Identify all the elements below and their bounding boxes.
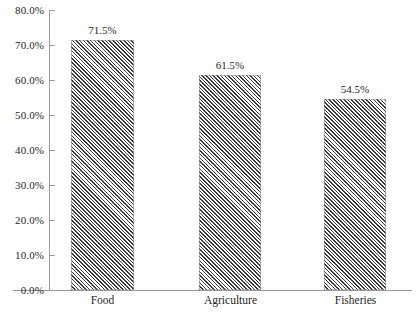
- y-axis-tick: [50, 80, 55, 81]
- bar-chart: 80.0% 70.0% 60.0% 50.0% 40.0% 30.0% 20.0…: [0, 0, 417, 316]
- y-axis-label-0: 0.0%: [21, 285, 44, 296]
- y-axis-tick: [50, 115, 55, 116]
- y-axis-tick: [50, 10, 55, 11]
- y-axis-label-20: 20.0%: [15, 215, 44, 226]
- x-axis-label-food: Food: [62, 294, 143, 307]
- y-axis-tick: [50, 185, 55, 186]
- y-axis-tick: [50, 45, 55, 46]
- y-axis-label-10: 10.0%: [15, 250, 44, 261]
- y-axis-tick: [50, 220, 55, 221]
- value-label-agriculture: 61.5%: [199, 60, 261, 71]
- y-axis-tick: [50, 150, 55, 151]
- y-axis-label-30: 30.0%: [15, 180, 44, 191]
- y-axis-tick: [50, 255, 55, 256]
- y-axis-label-60: 60.0%: [15, 75, 44, 86]
- bar-fisheries[interactable]: [324, 99, 386, 290]
- y-axis-label-50: 50.0%: [15, 110, 44, 121]
- y-axis-label-70: 70.0%: [15, 40, 44, 51]
- y-axis-tick: [50, 290, 55, 291]
- value-label-fisheries: 54.5%: [324, 84, 386, 95]
- bar-food[interactable]: [71, 40, 134, 290]
- y-axis-label-40: 40.0%: [15, 145, 44, 156]
- value-label-food: 71.5%: [71, 25, 134, 36]
- x-axis-line: [13, 290, 412, 291]
- plot-area: 80.0% 70.0% 60.0% 50.0% 40.0% 30.0% 20.0…: [0, 0, 417, 316]
- bar-agriculture[interactable]: [199, 75, 261, 290]
- y-axis-label-80: 80.0%: [15, 5, 44, 16]
- x-axis-label-agriculture: Agriculture: [190, 294, 271, 307]
- x-axis-label-fisheries: Fisheries: [315, 294, 396, 307]
